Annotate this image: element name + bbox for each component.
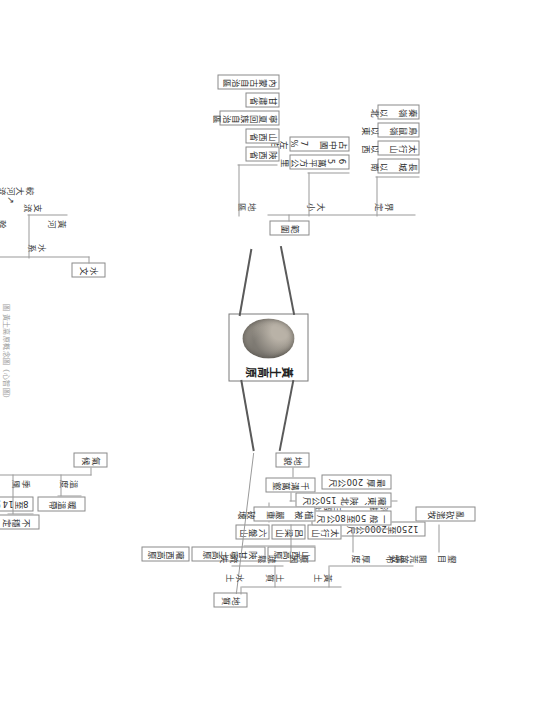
trunk-to-fanwei bbox=[279, 245, 294, 314]
central-node[interactable]: 黃土高原 bbox=[228, 313, 308, 381]
jieding-item-0[interactable]: 長城 以南 bbox=[377, 158, 419, 173]
branch-node-qihou[interactable]: 氣候 bbox=[73, 452, 107, 467]
trunk-to-dimao bbox=[278, 379, 294, 450]
jieding-item-1[interactable]: 太行山 以西 bbox=[377, 140, 419, 155]
diqu-item-3[interactable]: 甘肅省 bbox=[245, 92, 279, 107]
wendu-item-0[interactable]: 暖溫帶 bbox=[37, 496, 85, 511]
shanmai-item-1[interactable]: 呂梁山 bbox=[271, 524, 305, 539]
jieding-connector bbox=[376, 176, 377, 216]
yuanyin-connector bbox=[290, 524, 291, 552]
sub-label-houdu: 厚度 bbox=[351, 551, 369, 563]
jifeng-connector bbox=[12, 474, 13, 514]
diqu-item-2[interactable]: 寧夏回族自治區 bbox=[219, 110, 279, 125]
houdu-item-0[interactable]: 一般 50至80公尺 bbox=[311, 510, 391, 525]
jieding-item-2[interactable]: 鳥鼠嶺 以東 bbox=[377, 122, 419, 137]
jieding-item-3[interactable]: 秦嶺 以北 bbox=[377, 104, 419, 119]
fanwei-spine-stub bbox=[288, 214, 289, 221]
wendu-connector bbox=[60, 474, 61, 496]
shuixi-item-1: 支流 bbox=[23, 200, 41, 212]
jieding-spine bbox=[375, 176, 419, 177]
shuixi-item-0: 黃河 bbox=[47, 216, 65, 228]
group-label-shuitu: 水土 bbox=[225, 570, 243, 582]
shuixi-spine bbox=[27, 214, 67, 215]
huangtu-connector bbox=[328, 565, 329, 587]
shuiwen-spine-stub bbox=[88, 256, 89, 263]
loess-plateau-photo bbox=[242, 318, 294, 358]
branch-node-dizhi[interactable]: 地質 bbox=[213, 592, 247, 607]
kenmu-item-0[interactable]: 亂砍濫牧 bbox=[415, 506, 475, 521]
daxiao-connector bbox=[308, 172, 309, 216]
sub-label-shusong: 疏鬆 bbox=[257, 551, 275, 563]
daxiao-spine bbox=[307, 172, 349, 173]
figure-caption: 圖 黃土高原概念圖（心智圖） bbox=[1, 0, 11, 705]
sangaoyuan-item-2[interactable]: 隴西高原 bbox=[141, 546, 189, 561]
sub-label-yuanyin: 原因 bbox=[289, 551, 307, 563]
trunk-to-shuiwen bbox=[238, 248, 252, 315]
group-label-kenmu: 墾目 開荒放牧 bbox=[390, 551, 455, 563]
branch-node-dimao[interactable]: 地貌 bbox=[275, 452, 309, 467]
dimao-node-qiangouwanhe[interactable]: 千溝萬壑 bbox=[265, 477, 315, 492]
daxiao-item-0[interactable]: 65萬平方公里 bbox=[289, 154, 349, 169]
diqu-spine bbox=[237, 164, 277, 165]
dimao-spine-stub bbox=[290, 492, 291, 501]
mindmap-canvas-rotated: 黃土高原 範圍 界定 長城 以南 太行山 以西 鳥鼠嶺 以東 秦嶺 以北 大小 … bbox=[0, 0, 537, 705]
diqu-item-0[interactable]: 陝西省 bbox=[245, 146, 279, 161]
branch-node-fanwei[interactable]: 範圍 bbox=[269, 220, 309, 235]
yuanyin-item-0[interactable]: 植被 嚴重 破壞 bbox=[253, 506, 315, 521]
shuitu-spine bbox=[231, 565, 283, 566]
houdu-item-1[interactable]: 隴東、陝北 150公尺 bbox=[295, 492, 391, 507]
diqu-item-4[interactable]: 內蒙古自治區 bbox=[217, 74, 279, 89]
branch-node-shuiwen[interactable]: 水文 bbox=[71, 262, 105, 277]
qihou-spine bbox=[0, 474, 91, 475]
trunk-to-qihou bbox=[240, 379, 254, 450]
daxiao-item-1[interactable]: 占中國 7%左右 bbox=[289, 136, 349, 151]
shanmai-item-2[interactable]: 六盤山 bbox=[235, 524, 269, 539]
central-node-title: 黃土高原 bbox=[244, 362, 292, 378]
dizhi-spine bbox=[241, 586, 341, 587]
sub-label-liushi: 流失 bbox=[219, 551, 237, 563]
dimao-stub bbox=[292, 467, 293, 477]
diqu-item-1[interactable]: 山西省 bbox=[245, 128, 279, 143]
shuixi-connector bbox=[28, 214, 29, 258]
qihou-spine-stub bbox=[90, 467, 91, 475]
diqu-connector bbox=[238, 164, 239, 216]
shanmai-item-0[interactable]: 太行山 bbox=[307, 524, 341, 539]
huangtu-spine bbox=[329, 565, 413, 566]
dizhi-spine-stub bbox=[240, 586, 241, 594]
houdu-connector bbox=[352, 528, 353, 552]
mindmap-canvas: 黃土高原 範圍 界定 長城 以南 太行山 以西 鳥鼠嶺 以東 秦嶺 以北 大小 … bbox=[0, 0, 537, 705]
kenmu-connector bbox=[438, 524, 439, 552]
houdu-spine bbox=[351, 528, 391, 529]
houdu-item-2[interactable]: 最厚 200公尺 bbox=[321, 474, 391, 489]
shuiwen-spine bbox=[0, 256, 89, 257]
tuzhi-connector bbox=[274, 565, 275, 587]
